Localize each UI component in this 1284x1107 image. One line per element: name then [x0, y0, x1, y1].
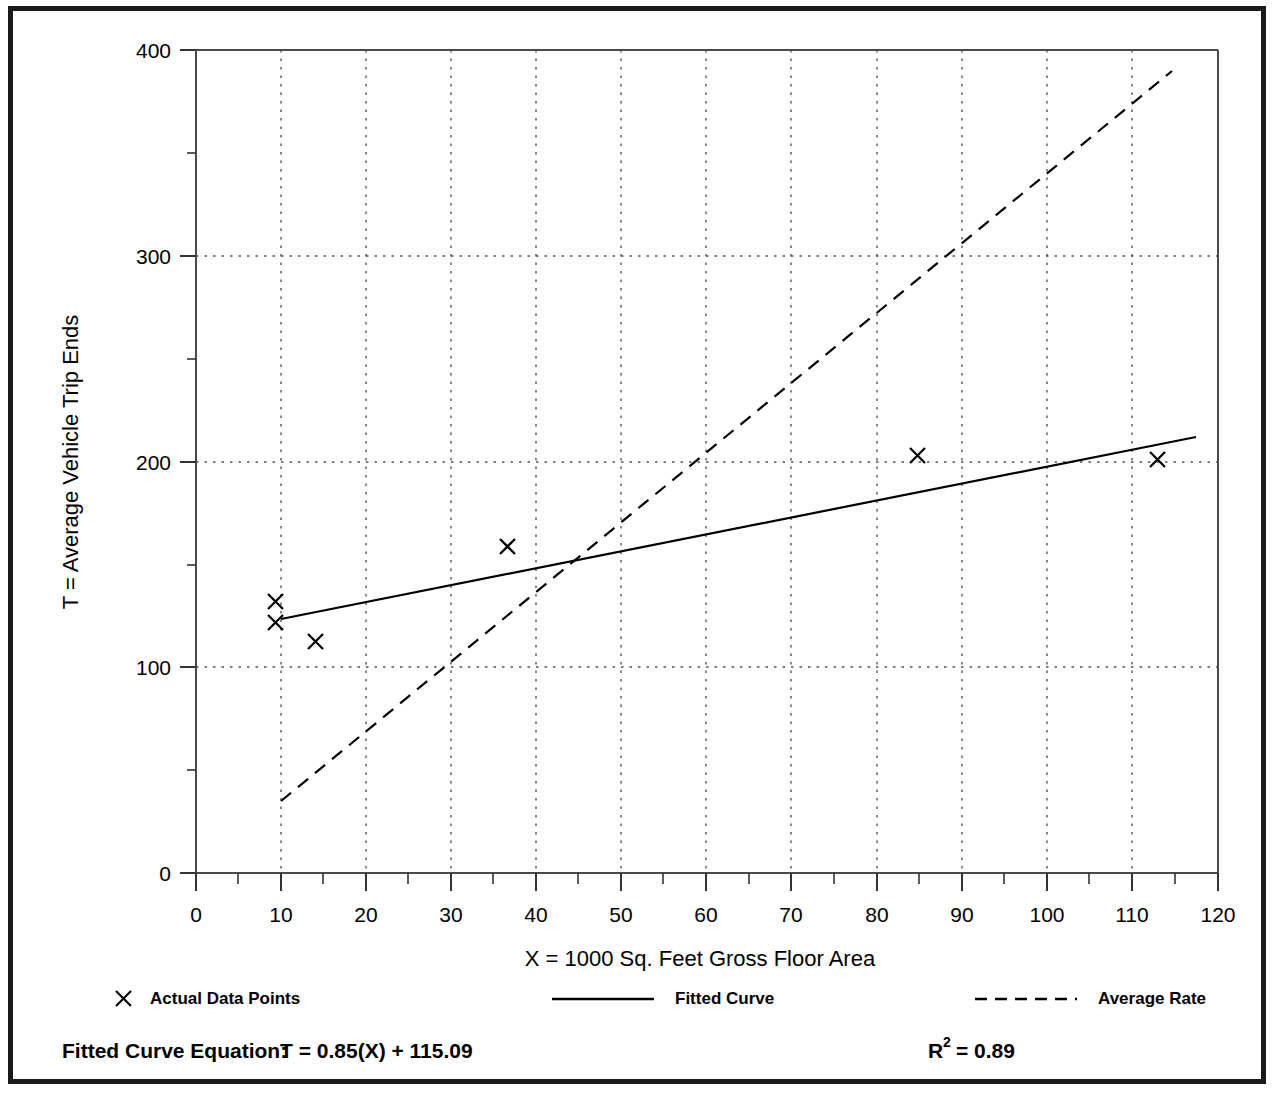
y-axis-title: T = Average Vehicle Trip Ends: [58, 315, 83, 610]
chart-legend: Actual Data Points Fitted Curve Average …: [116, 989, 1206, 1008]
r-squared-value: = 0.89: [956, 1039, 1015, 1062]
x-tick-label-0: 0: [190, 903, 202, 926]
data-point-marker: [268, 594, 283, 609]
series-fitted-curve-line: [281, 437, 1196, 619]
x-tick-label-20: 20: [354, 903, 377, 926]
y-tick-label-400: 400: [136, 39, 171, 62]
x-tick-label-50: 50: [609, 903, 632, 926]
y-tick-label-0: 0: [159, 862, 171, 885]
y-tick-label-100: 100: [136, 656, 171, 679]
x-tick-label-110: 110: [1115, 903, 1148, 926]
y-tick-label-200: 200: [136, 451, 171, 474]
legend-label-fitted-curve: Fitted Curve: [675, 989, 774, 1008]
data-point-marker: [910, 448, 925, 463]
x-tick-label-60: 60: [694, 903, 717, 926]
series-actual-data-points: [268, 448, 1165, 649]
x-tick-label-40: 40: [524, 903, 547, 926]
x-tick-label-90: 90: [950, 903, 973, 926]
fitted-equation-value: T = 0.85(X) + 115.09: [280, 1039, 473, 1062]
x-axis-title: X = 1000 Sq. Feet Gross Floor Area: [525, 946, 876, 971]
x-tick-label-30: 30: [439, 903, 462, 926]
legend-label-actual-data-points: Actual Data Points: [150, 989, 300, 1008]
footer-r-squared: R 2 = 0.89: [928, 1034, 1015, 1062]
footer-equation: Fitted Curve Equation: T = 0.85(X) + 115…: [62, 1039, 473, 1062]
grid-lines: [196, 50, 1218, 873]
r-squared-exponent: 2: [943, 1034, 951, 1050]
x-tick-label-70: 70: [779, 903, 802, 926]
data-point-marker: [268, 615, 283, 630]
x-tick-label-80: 80: [865, 903, 888, 926]
x-tick-label-120: 120: [1200, 903, 1235, 926]
chart-svg: 0 100 200 300 400 0 10 20 30 40 50 60 70…: [0, 0, 1284, 1107]
x-tick-labels: 0 10 20 30 40 50 60 70 80 90 100 110 120: [190, 903, 1235, 926]
y-axis-ticks: [180, 50, 196, 873]
fitted-equation-label: Fitted Curve Equation:: [62, 1039, 287, 1062]
r-squared-label: R: [928, 1039, 943, 1062]
figure-page: 0 100 200 300 400 0 10 20 30 40 50 60 70…: [0, 0, 1284, 1107]
x-axis-ticks: [196, 873, 1218, 891]
data-point-marker: [308, 634, 323, 649]
legend-marker-actual-data-points: [116, 991, 131, 1006]
y-tick-label-300: 300: [136, 245, 171, 268]
data-point-marker: [1150, 452, 1165, 467]
data-point-marker: [500, 539, 515, 554]
legend-label-average-rate: Average Rate: [1098, 989, 1206, 1008]
x-tick-label-10: 10: [269, 903, 292, 926]
y-tick-labels: 0 100 200 300 400: [136, 39, 171, 885]
x-tick-label-100: 100: [1029, 903, 1064, 926]
chart-figure: 0 100 200 300 400 0 10 20 30 40 50 60 70…: [0, 0, 1284, 1107]
series-average-rate-line: [281, 71, 1172, 801]
